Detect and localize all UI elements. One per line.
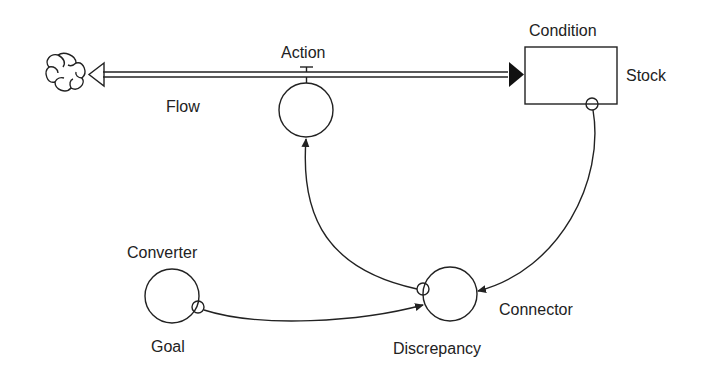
discrepancy-label: Discrepancy <box>393 341 481 357</box>
stock-flow-diagram: Action Condition Stock Flow Converter Go… <box>0 0 712 375</box>
stock-label: Stock <box>626 68 666 84</box>
connector-label: Connector <box>499 302 573 318</box>
action-label: Action <box>281 45 325 61</box>
converter-label: Converter <box>127 245 197 261</box>
flow-inlet-arrow-icon <box>509 62 524 87</box>
connector-stock-to-discrepancy <box>478 110 595 291</box>
action-converter[interactable] <box>279 83 333 137</box>
connector-discrepancy-to-action <box>305 139 417 289</box>
connector-goal-to-discrepancy <box>204 305 423 321</box>
cloud-icon <box>46 53 85 90</box>
goal-converter[interactable] <box>145 269 199 323</box>
goal-label: Goal <box>151 339 185 355</box>
valve-icon <box>300 67 313 83</box>
discrepancy-converter[interactable] <box>423 267 477 321</box>
flow-pipe <box>103 72 508 77</box>
flow-label: Flow <box>166 99 200 115</box>
flow-outlet-arrow-icon <box>89 63 104 86</box>
condition-label: Condition <box>529 23 597 39</box>
condition-stock[interactable] <box>525 47 617 104</box>
